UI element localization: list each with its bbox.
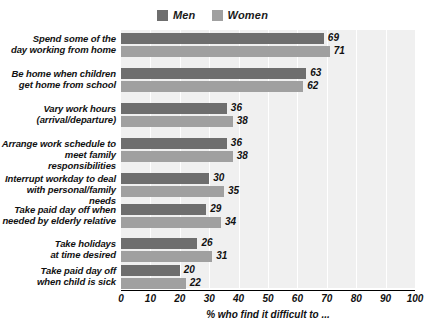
x-tick-label-0: 0	[118, 293, 124, 304]
category-label: Vary work hours(arrival/departure)	[0, 103, 116, 125]
category-label-line2: when child is sick	[0, 276, 116, 287]
bar-value-label: 26	[197, 237, 212, 248]
x-tick-label-20: 20	[174, 293, 185, 304]
bar-men[interactable]	[121, 173, 209, 184]
bar-women[interactable]	[121, 46, 330, 57]
bar-value-label: 36	[227, 137, 242, 148]
category-label-line1: Take holidays	[0, 238, 116, 249]
category-group: Spend some of theday working from home69…	[0, 33, 425, 57]
category-group: Take holidaysat time desired2631	[0, 238, 425, 262]
x-axis-title: % who find it difficult to ...	[121, 309, 415, 320]
category-group: Take paid day off whenneeded by elderly …	[0, 204, 425, 228]
category-label-line1: Spend some of the	[0, 33, 116, 44]
x-axis-line	[121, 290, 415, 291]
x-tick-label-10: 10	[145, 293, 156, 304]
category-label-line2: get home from school	[0, 79, 116, 90]
category-label-line2: needed by elderly relative	[0, 215, 116, 226]
bar-track: 22	[121, 278, 415, 289]
bar-value-label: 34	[221, 216, 236, 227]
bar-women[interactable]	[121, 251, 212, 262]
bar-value-label: 20	[180, 264, 195, 275]
category-label-line1: Arrange work schedule to	[0, 138, 116, 149]
x-axis-ticks: 0102030405060708090100	[0, 293, 425, 307]
x-tick-label-40: 40	[233, 293, 244, 304]
bar-women[interactable]	[121, 278, 186, 289]
bar-track: 35	[121, 186, 415, 197]
category-label: Spend some of theday working from home	[0, 33, 116, 55]
x-tick-label-50: 50	[262, 293, 273, 304]
bar-value-label: 71	[330, 45, 345, 56]
bar-track: 26	[121, 238, 415, 249]
bar-women[interactable]	[121, 151, 233, 162]
chart-legend: MenWomen	[0, 8, 425, 22]
bar-women[interactable]	[121, 81, 303, 92]
x-tick-label-70: 70	[321, 293, 332, 304]
category-label-line2: at time desired	[0, 249, 116, 260]
category-label: Be home when childrenget home from schoo…	[0, 68, 116, 90]
bar-men[interactable]	[121, 68, 306, 79]
bar-women[interactable]	[121, 116, 233, 127]
category-group: Take paid day offwhen child is sick2022	[0, 265, 425, 289]
category-label-line2: with personal/family needs	[0, 184, 116, 206]
bar-value-label: 35	[224, 185, 239, 196]
bar-value-label: 31	[212, 250, 227, 261]
legend-label: Men	[173, 9, 196, 21]
bar-value-label: 38	[233, 115, 248, 126]
bar-value-label: 62	[303, 80, 318, 91]
bar-women[interactable]	[121, 186, 224, 197]
bar-track: 71	[121, 46, 415, 57]
bar-track: 38	[121, 116, 415, 127]
x-tick-label-60: 60	[292, 293, 303, 304]
bar-value-label: 29	[206, 203, 221, 214]
bar-track: 30	[121, 173, 415, 184]
category-label-line1: Take paid day off	[0, 265, 116, 276]
bar-men[interactable]	[121, 204, 206, 215]
bar-track: 63	[121, 68, 415, 79]
bar-track: 34	[121, 217, 415, 228]
bar-women[interactable]	[121, 217, 221, 228]
category-label-line1: Take paid day off when	[0, 204, 116, 215]
bar-track: 62	[121, 81, 415, 92]
bar-track: 36	[121, 138, 415, 149]
x-tick-label-30: 30	[204, 293, 215, 304]
bar-value-label: 36	[227, 102, 242, 113]
bar-men[interactable]	[121, 265, 180, 276]
category-group: Arrange work schedule tomeet family resp…	[0, 138, 425, 162]
category-group: Interrupt workday to dealwith personal/f…	[0, 173, 425, 197]
category-label: Take paid day off whenneeded by elderly …	[0, 204, 116, 226]
legend-swatch-icon-men	[157, 10, 168, 21]
legend-entry-men[interactable]: Men	[157, 9, 196, 21]
bar-track: 69	[121, 33, 415, 44]
x-tick-label-100: 100	[407, 293, 424, 304]
category-label: Interrupt workday to dealwith personal/f…	[0, 173, 116, 206]
category-label-line1: Vary work hours	[0, 103, 116, 114]
category-label-line2: (arrival/departure)	[0, 114, 116, 125]
bar-value-label: 38	[233, 150, 248, 161]
category-label-line2: meet family responsibilities	[0, 149, 116, 171]
category-label-line1: Interrupt workday to deal	[0, 173, 116, 184]
bar-track: 31	[121, 251, 415, 262]
legend-entry-women[interactable]: Women	[212, 9, 269, 21]
legend-swatch-icon-women	[212, 10, 223, 21]
category-group: Be home when childrenget home from schoo…	[0, 68, 425, 92]
bar-value-label: 30	[209, 172, 224, 183]
bar-track: 36	[121, 103, 415, 114]
bar-men[interactable]	[121, 33, 324, 44]
bar-men[interactable]	[121, 238, 197, 249]
bar-track: 20	[121, 265, 415, 276]
category-label-line2: day working from home	[0, 44, 116, 55]
legend-label: Women	[228, 9, 269, 21]
x-tick-label-90: 90	[380, 293, 391, 304]
bar-track: 38	[121, 151, 415, 162]
bar-track: 29	[121, 204, 415, 215]
category-label-line1: Be home when children	[0, 68, 116, 79]
x-tick-label-80: 80	[351, 293, 362, 304]
bar-men[interactable]	[121, 138, 227, 149]
bar-value-label: 22	[186, 277, 201, 288]
category-label: Take holidaysat time desired	[0, 238, 116, 260]
bar-men[interactable]	[121, 103, 227, 114]
bar-chart: MenWomen Spend some of theday working fr…	[0, 0, 425, 326]
category-group: Vary work hours(arrival/departure)3638	[0, 103, 425, 127]
bar-value-label: 63	[306, 67, 321, 78]
bar-value-label: 69	[324, 32, 339, 43]
